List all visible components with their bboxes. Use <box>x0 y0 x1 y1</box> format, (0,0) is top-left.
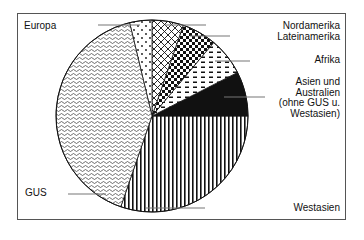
label-lateinamerika: Lateinamerika <box>277 32 340 43</box>
label-asien-line-1: Asien und <box>279 77 340 88</box>
label-nordamerika: Nordamerika <box>283 21 340 32</box>
label-asien-australien: Asien und Australien (ohne GUS u. Westas… <box>279 77 340 119</box>
label-gus: GUS <box>25 188 47 199</box>
label-asien-line-3: (ohne GUS u. <box>279 98 340 109</box>
label-afrika: Afrika <box>314 55 340 66</box>
label-asien-line-4: Westasien) <box>279 109 340 120</box>
label-westasien: Westasien <box>293 203 340 214</box>
pie-slices <box>56 20 248 212</box>
label-europa: Europa <box>24 21 56 32</box>
